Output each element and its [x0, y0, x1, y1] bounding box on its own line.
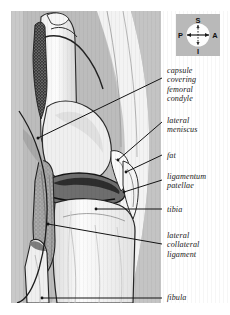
- compass-label-superior: S: [196, 16, 201, 25]
- label-fat: fat: [167, 151, 176, 160]
- label-ligamentum-patellae: ligamentum patellae: [167, 172, 206, 191]
- label-lateral-collateral-ligament: lateral collateral ligament: [167, 231, 199, 259]
- figure-page: S I P A: [0, 0, 230, 315]
- label-lateral-meniscus: lateral meniscus: [167, 116, 197, 135]
- compass-label-inferior: I: [197, 47, 199, 56]
- compass-label-anterior: A: [212, 31, 218, 40]
- label-tibia: tibia: [167, 205, 182, 214]
- orientation-compass: S I P A: [176, 14, 220, 56]
- knee-illustration-artwork: [11, 11, 161, 303]
- label-fibula: fibula: [167, 293, 187, 302]
- tibia: [53, 199, 135, 303]
- knee-illustration: [11, 11, 161, 303]
- label-capsule-covering-femoral-condyle: capsule covering femoral condyle: [167, 66, 196, 104]
- compass-label-posterior: P: [178, 31, 183, 40]
